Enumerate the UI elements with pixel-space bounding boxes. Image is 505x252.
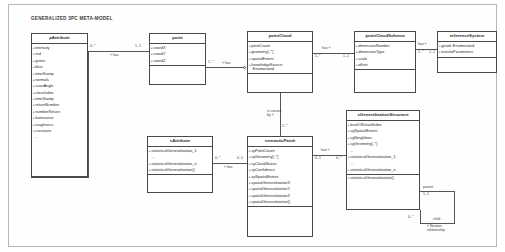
multiplicity-label: 1..1 xyxy=(135,45,141,49)
role-label-child: child xyxy=(433,217,440,221)
multiplicity-label: 0..* xyxy=(215,157,220,161)
multiplicity-label: 1..* xyxy=(282,125,287,129)
role-label-line2: by » xyxy=(267,113,274,117)
class-name-semantic-patch: semanticPatch xyxy=(248,137,312,147)
attribute-compartment: statisticalGeneralization_1 ... statisti… xyxy=(148,147,212,176)
operation-compartment xyxy=(248,74,312,83)
class-box-s-generalization-structure[interactable]: sGeneralizationStructure levelOfDetailIn… xyxy=(346,110,420,210)
class-box-p-attribute[interactable]: pAttribute intensity red green blue time… xyxy=(31,33,88,178)
attribute-compartment: intensity red green blue timeStamp norma… xyxy=(32,44,87,177)
class-box-point-cloud-schema[interactable]: pointCloudSchema dimensionNumber dimensi… xyxy=(354,31,416,93)
class-box-s-attribute[interactable]: sAttribute statisticalGeneralization_1 .… xyxy=(147,136,213,193)
attribute-row: spatialGeneralization() xyxy=(248,199,312,205)
role-label: is carried by » xyxy=(267,109,281,117)
multiplicity-label: 0..1 xyxy=(315,157,321,161)
attribute-compartment: coordX coordY coordZ xyxy=(150,44,205,66)
role-label-parent: parent xyxy=(423,185,433,189)
operation-compartment xyxy=(438,58,496,67)
association-line-point-point-cloud xyxy=(206,67,244,68)
class-name-s-generalization-structure: sGeneralizationStructure xyxy=(347,111,419,121)
attribute-row: offset xyxy=(355,62,415,68)
association-end-circle xyxy=(243,66,246,69)
multiplicity-label: 0..* xyxy=(90,45,95,49)
class-name-s-attribute: sAttribute xyxy=(148,137,212,147)
class-box-semantic-patch[interactable]: semanticPatch spPointCount spGeometry[..… xyxy=(247,136,313,237)
multiplicity-label: 0..* xyxy=(336,157,341,161)
class-box-reference-system[interactable]: referenceSystem geoid: Enumerated transf… xyxy=(437,31,497,73)
self-assoc-line-left xyxy=(420,210,421,224)
class-name-reference-system: referenceSystem xyxy=(438,32,496,42)
class-name-point-cloud-schema: pointCloudSchema xyxy=(355,32,415,42)
role-label: has » xyxy=(418,42,427,46)
attribute-compartment: spPointCount spGeometry[..*] spCloudStat… xyxy=(248,147,312,207)
attribute-compartment: dimensionNumber dimensionType scale offs… xyxy=(355,42,415,71)
operation-compartment xyxy=(150,66,205,75)
nestion-line2: relationship xyxy=(427,228,445,232)
attribute-row: statisticalGeneralization() xyxy=(148,167,212,173)
class-box-point[interactable]: point coordX coordY coordZ xyxy=(149,33,206,85)
class-name-p-attribute: pAttribute xyxy=(32,34,87,44)
operation-compartment: statisticalGeneralization() xyxy=(347,175,419,181)
uml-diagram-screenshot: GENERALIZED 3PC META-MODEL pAttribute in… xyxy=(0,0,505,252)
diagram-canvas: GENERALIZED 3PC META-MODEL pAttribute in… xyxy=(8,4,497,247)
multiplicity-label: 1..1 xyxy=(423,193,429,197)
role-label: has » xyxy=(321,148,330,152)
attribute-compartment: geoid: Enumerated transfoParameters xyxy=(438,42,496,58)
multiplicity-label: 1..* xyxy=(208,61,213,65)
attribute-compartment: levelOfDetailIndex sgSpatialExtent sgNei… xyxy=(347,121,419,175)
self-assoc-line-right xyxy=(454,191,455,224)
role-label: « has xyxy=(110,53,119,57)
multiplicity-label: 1..1 xyxy=(429,51,435,55)
operation-row: statisticalGeneralization() xyxy=(347,175,419,181)
attribute-row: ... xyxy=(32,134,87,140)
attribute-row: statisticalGeneralization_n xyxy=(347,167,419,173)
class-box-point-cloud[interactable]: pointCloud pointCount geometry[..*] spat… xyxy=(247,31,313,93)
multiplicity-label: 1..1 xyxy=(343,55,349,59)
role-label: has » xyxy=(322,46,331,50)
multiplicity-label: 1..* xyxy=(418,51,423,55)
operation-compartment xyxy=(355,70,415,79)
attribute-row: knowledgeSource: Enumerated xyxy=(248,62,312,72)
page-title: GENERALIZED 3PC META-MODEL xyxy=(31,16,113,21)
class-name-point-cloud: pointCloud xyxy=(248,32,312,42)
attribute-row: coordZ xyxy=(150,58,205,64)
attribute-compartment: pointCount geometry[..*] spatialExtent k… xyxy=(248,42,312,75)
role-label: « has xyxy=(222,61,231,65)
multiplicity-label: 0..* xyxy=(408,216,413,220)
association-line-p-attribute-stub xyxy=(88,51,89,178)
attribute-row: transfoParameters xyxy=(438,49,496,55)
role-label: « has xyxy=(224,165,233,169)
multiplicity-label: 1..* xyxy=(315,55,320,59)
role-label-nestion-relationship: « Nestion relationship xyxy=(427,224,445,232)
attribute-text-continued: Enumerated xyxy=(251,67,311,71)
class-name-point: point xyxy=(150,34,205,44)
multiplicity-label: 0..1 xyxy=(237,157,243,161)
